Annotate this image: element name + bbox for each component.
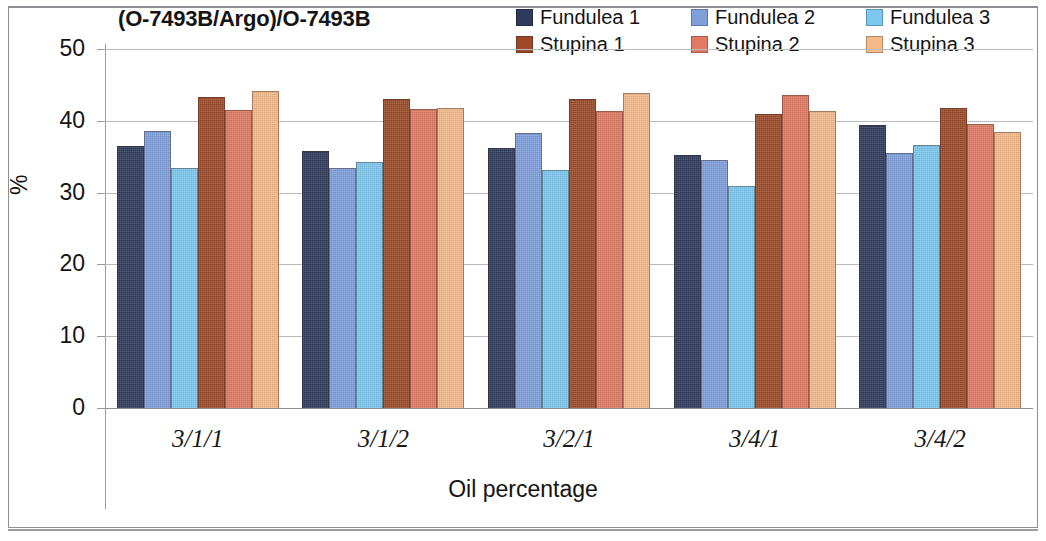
bar[interactable] — [542, 170, 569, 408]
legend-label: Fundulea 3 — [890, 6, 990, 29]
bar-group — [476, 49, 662, 408]
y-axis-tick-label: 30 — [33, 179, 85, 206]
y-axis-tick-label: 50 — [33, 35, 85, 62]
bar[interactable] — [994, 132, 1021, 408]
bar[interactable] — [383, 99, 410, 408]
bar[interactable] — [755, 114, 782, 408]
bar[interactable] — [356, 162, 383, 408]
x-axis-tick-label: 3/1/1 — [105, 425, 291, 453]
bar-group — [847, 49, 1033, 408]
y-axis-tick-label: 40 — [33, 107, 85, 134]
legend-item[interactable]: Fundulea 2 — [691, 6, 866, 29]
bar[interactable] — [437, 108, 464, 408]
bar[interactable] — [171, 168, 198, 408]
bar[interactable] — [488, 148, 515, 408]
y-axis-tick-mark — [97, 408, 105, 409]
x-axis-tick-label: 3/2/1 — [476, 425, 662, 453]
bar[interactable] — [302, 151, 329, 408]
y-axis-tick-mark — [97, 121, 105, 122]
bar[interactable] — [913, 145, 940, 408]
x-axis-line — [105, 408, 1033, 409]
y-axis-tick-label: 0 — [33, 394, 85, 421]
bar[interactable] — [728, 186, 755, 408]
bar[interactable] — [859, 125, 886, 408]
bar[interactable] — [329, 168, 356, 408]
bar[interactable] — [252, 91, 279, 408]
bar[interactable] — [967, 124, 994, 408]
legend-swatch-icon — [516, 9, 533, 26]
legend-label: Fundulea 2 — [715, 6, 815, 29]
y-axis-tick-mark — [97, 336, 105, 337]
bar-group — [662, 49, 848, 408]
legend-swatch-icon — [691, 9, 708, 26]
bar[interactable] — [225, 110, 252, 408]
x-axis-tick-labels: 3/1/13/1/23/2/13/4/13/4/2 — [105, 425, 1033, 453]
page-border-bottom-rule — [8, 529, 1038, 531]
bar[interactable] — [144, 131, 171, 408]
bar[interactable] — [809, 111, 836, 408]
chart-figure: (O-7493B/Argo)/O-7493B Fundulea 1Fundule… — [0, 0, 1046, 541]
bar[interactable] — [117, 146, 144, 408]
bar-groups — [105, 49, 1033, 408]
bar[interactable] — [782, 95, 809, 408]
bar[interactable] — [596, 111, 623, 408]
bar[interactable] — [515, 133, 542, 408]
y-axis-tick-label: 20 — [33, 250, 85, 277]
bar[interactable] — [701, 160, 728, 408]
x-axis-tick-label: 3/4/2 — [847, 425, 1033, 453]
bar[interactable] — [674, 155, 701, 408]
x-axis-tick-label: 3/1/2 — [291, 425, 477, 453]
bar-group — [105, 49, 291, 408]
y-axis-tick-mark — [97, 193, 105, 194]
x-axis-tick-label: 3/4/1 — [662, 425, 848, 453]
bar[interactable] — [940, 108, 967, 408]
y-axis-tick-mark — [97, 264, 105, 265]
bar-group — [291, 49, 477, 408]
bar[interactable] — [569, 99, 596, 408]
bar[interactable] — [623, 93, 650, 408]
y-axis-tick-label: 10 — [33, 322, 85, 349]
bar[interactable] — [198, 97, 225, 408]
y-axis-tick-mark — [97, 49, 105, 50]
legend-item[interactable]: Fundulea 3 — [866, 6, 1036, 29]
y-axis-title: % — [6, 175, 33, 195]
x-axis-title-text: Oil percentage — [448, 476, 598, 503]
legend-label: Fundulea 1 — [540, 6, 640, 29]
bar[interactable] — [410, 109, 437, 408]
bar[interactable] — [886, 153, 913, 408]
legend-swatch-icon — [866, 9, 883, 26]
legend-item[interactable]: Fundulea 1 — [516, 6, 691, 29]
chart-title: (O-7493B/Argo)/O-7493B — [118, 6, 370, 32]
x-axis-title: Oil percentage — [105, 476, 1033, 503]
